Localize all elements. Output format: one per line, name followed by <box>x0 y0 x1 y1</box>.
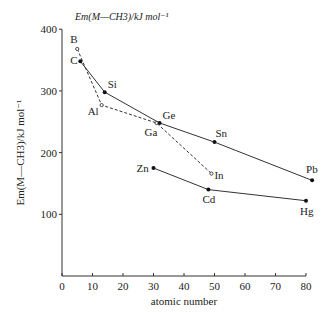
x-tick-label: 0 <box>59 280 65 292</box>
y-axis-title: Em(M—CH3)/kJ mol⁻¹ <box>14 100 27 206</box>
point-label: C <box>70 54 77 66</box>
point-label: In <box>214 169 224 181</box>
x-axis-title: atomic number <box>151 295 218 307</box>
chart-canvas: 01020304050607080100200300400atomic numb… <box>0 0 335 320</box>
point-label: Al <box>88 105 99 117</box>
x-tick-label: 20 <box>118 280 130 292</box>
y-tick-label: 400 <box>41 23 58 35</box>
series-line <box>154 168 307 201</box>
data-point <box>304 199 308 203</box>
point-label: Pb <box>306 163 318 175</box>
data-point <box>76 47 79 50</box>
data-point <box>213 140 217 144</box>
data-point <box>152 166 156 170</box>
point-label: Sn <box>216 127 228 139</box>
data-point <box>310 178 314 182</box>
x-tick-label: 10 <box>87 280 99 292</box>
x-tick-label: 80 <box>301 280 313 292</box>
y-tick-label: 100 <box>41 208 58 220</box>
point-label: Si <box>108 78 117 90</box>
data-point <box>155 121 158 124</box>
point-label: Cd <box>202 193 215 205</box>
y-tick-label: 200 <box>41 147 58 159</box>
x-tick-label: 60 <box>240 280 252 292</box>
data-point <box>103 90 107 94</box>
point-label: B <box>70 33 77 45</box>
data-point <box>100 103 103 106</box>
point-label: Ge <box>163 109 176 121</box>
point-label: Ga <box>145 126 158 138</box>
point-label: Zn <box>137 162 150 174</box>
x-tick-label: 50 <box>209 280 221 292</box>
x-tick-label: 40 <box>179 280 191 292</box>
data-point <box>210 172 213 175</box>
y-tick-label: 300 <box>41 85 58 97</box>
point-label: Hg <box>300 205 314 217</box>
x-tick-label: 30 <box>148 280 160 292</box>
chart: 01020304050607080100200300400atomic numb… <box>0 0 335 320</box>
top-axis-label: Em(M—CH3)/kJ mol⁻¹ <box>74 11 169 23</box>
data-point <box>206 188 210 192</box>
x-tick-label: 70 <box>270 280 282 292</box>
